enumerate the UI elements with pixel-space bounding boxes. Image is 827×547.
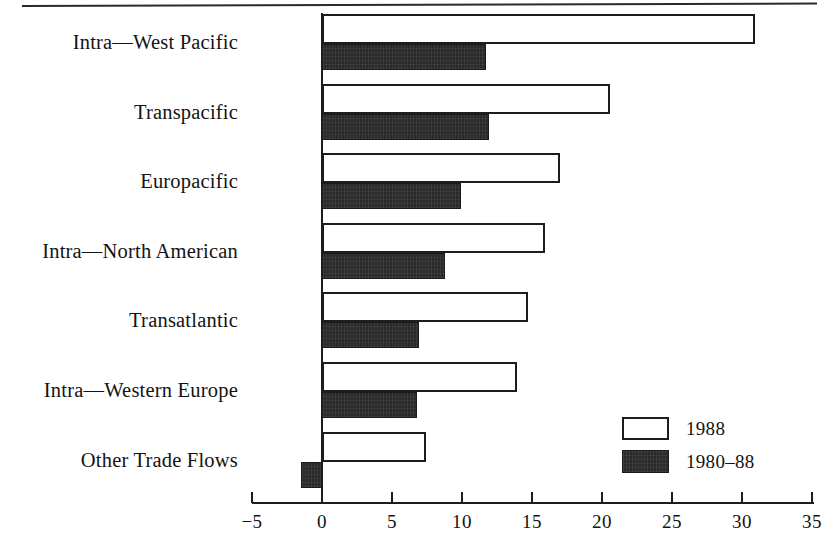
x-tick-8	[811, 492, 813, 503]
x-tick-2	[391, 492, 393, 503]
legend-swatch-dark	[622, 450, 669, 473]
bar-1-series-0	[322, 84, 610, 114]
x-axis-line	[252, 502, 814, 504]
category-label-4: Transatlantic	[0, 308, 238, 332]
bar-3-series-1	[322, 253, 445, 279]
bar-4-series-0	[322, 292, 528, 322]
bar-2-series-0	[322, 153, 560, 183]
legend: 1988 1980–88	[622, 412, 755, 478]
bar-4-series-1	[322, 322, 419, 348]
legend-swatch-light	[622, 417, 669, 440]
x-tick-label-8: 35	[782, 511, 827, 533]
x-tick-7	[741, 492, 743, 503]
bar-5-series-0	[322, 362, 517, 392]
category-label-6: Other Trade Flows	[0, 448, 238, 472]
bar-3-series-0	[322, 223, 545, 253]
legend-label-1988: 1988	[686, 418, 725, 440]
bar-0-series-1	[322, 44, 486, 70]
category-label-5: Intra—Western Europe	[0, 378, 238, 402]
x-tick-label-6: 25	[642, 511, 702, 533]
legend-label-1980-88: 1980–88	[686, 451, 755, 473]
category-label-2: Europacific	[0, 169, 238, 193]
bar-2-series-1	[322, 183, 461, 209]
bar-6-series-0	[322, 432, 426, 462]
category-label-0: Intra—West Pacific	[0, 30, 238, 54]
figure-bar-chart: −505101520253035 Intra—West PacificTrans…	[0, 0, 827, 547]
x-tick-label-1: 0	[292, 511, 352, 533]
bar-6-series-1	[301, 462, 322, 488]
x-tick-label-0: −5	[222, 511, 282, 533]
category-label-3: Intra—North American	[0, 239, 238, 263]
x-tick-1	[321, 492, 323, 503]
bar-1-series-1	[322, 114, 489, 140]
x-tick-label-3: 10	[432, 511, 492, 533]
x-tick-label-2: 5	[362, 511, 422, 533]
x-tick-6	[671, 492, 673, 503]
category-label-1: Transpacific	[0, 100, 238, 124]
legend-entry-1980-88: 1980–88	[622, 445, 755, 478]
bar-0-series-0	[322, 14, 755, 44]
bar-5-series-1	[322, 392, 417, 418]
x-tick-3	[461, 492, 463, 503]
x-tick-label-5: 20	[572, 511, 632, 533]
x-tick-label-7: 30	[712, 511, 772, 533]
x-tick-4	[531, 492, 533, 503]
x-tick-0	[251, 492, 253, 503]
x-tick-5	[601, 492, 603, 503]
x-tick-label-4: 15	[502, 511, 562, 533]
legend-entry-1988: 1988	[622, 412, 755, 445]
